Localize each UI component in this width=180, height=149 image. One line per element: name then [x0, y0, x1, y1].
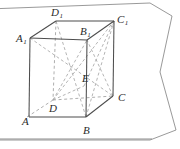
- label-A: A: [21, 115, 29, 127]
- edge-A1-B1: [30, 38, 87, 40]
- diagonal-D-E: [53, 86, 84, 100]
- visible-edges: [29, 21, 114, 117]
- edge-D-C: [53, 96, 113, 100]
- label-E: E: [81, 72, 89, 84]
- label-B1: B1: [80, 25, 91, 39]
- edge-A1-A: [29, 38, 30, 117]
- label-D: D: [48, 102, 57, 114]
- label-D1: D1: [50, 6, 63, 20]
- edge-A1-D1: [30, 21, 56, 38]
- figure-canvas: ABCDA1B1C1D1E: [0, 0, 180, 149]
- label-C: C: [118, 91, 126, 103]
- edge-C1-C: [113, 21, 114, 96]
- label-B: B: [83, 124, 90, 136]
- label-C1: C1: [117, 13, 128, 27]
- diagonal-D-B1: [53, 40, 87, 100]
- diagonal-A1-C: [30, 38, 113, 96]
- interior-diagonals: [30, 21, 114, 117]
- edge-B-C: [86, 96, 113, 117]
- cube-figure: ABCDA1B1C1D1E: [0, 0, 180, 149]
- label-A1: A1: [15, 32, 27, 46]
- edge-D1-D: [53, 21, 56, 100]
